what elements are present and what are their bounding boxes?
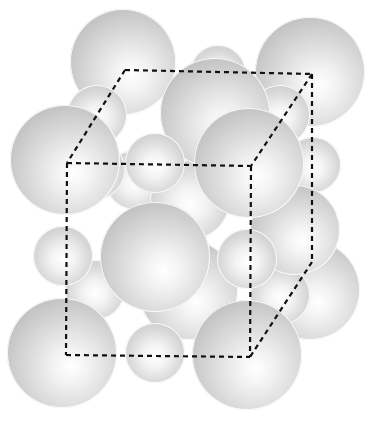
unit-cell-edge (250, 166, 251, 357)
unit-cell-edge (66, 355, 250, 357)
crystal-structure-diagram (0, 0, 375, 423)
unit-cell-edge (67, 163, 251, 166)
unit-cell-edge (250, 262, 312, 357)
unit-cell-edge (251, 74, 312, 166)
unit-cell-edge (67, 70, 125, 163)
unit-cell-outline (0, 0, 375, 423)
unit-cell-edge (66, 163, 67, 355)
unit-cell-edge (125, 70, 312, 74)
